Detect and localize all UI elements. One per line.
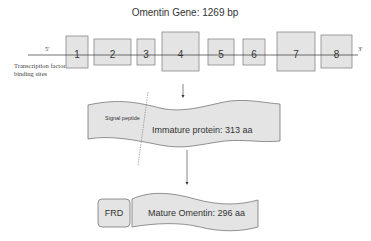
exon-label: 7 <box>293 49 299 60</box>
exon-label: 4 <box>178 49 184 60</box>
exon-label: 3 <box>143 49 149 60</box>
exon-1: 1 <box>66 36 88 68</box>
immature-protein-label: Immature protein: 313 aa <box>152 125 253 135</box>
arrow-immature-to-mature <box>186 150 189 185</box>
signal-peptide-label: Signal peptide <box>105 115 140 121</box>
immature-protein-ribbon <box>88 100 280 146</box>
omentin-diagram: Omentin Gene: 1269 bp 1 2 3 4 5 6 7 8 5'… <box>0 0 371 241</box>
exon-label: 5 <box>218 49 224 60</box>
diagram-title: Omentin Gene: 1269 bp <box>132 7 239 18</box>
exon-6: 6 <box>243 39 265 65</box>
mature-protein-label: Mature Omentin: 296 aa <box>148 208 245 218</box>
frd-domain: FRD <box>98 199 130 227</box>
exon-label: 8 <box>334 49 340 60</box>
tf-binding-label-line2: binding sites <box>14 70 48 77</box>
exon-label: 6 <box>251 49 257 60</box>
exon-label: 1 <box>74 49 80 60</box>
frd-label: FRD <box>105 208 124 218</box>
tf-binding-label-line1: Transcription factor <box>14 62 66 69</box>
exon-7: 7 <box>277 32 315 71</box>
arrow-gene-to-protein <box>182 84 185 98</box>
exon-8: 8 <box>321 35 352 68</box>
exon-5: 5 <box>208 39 234 65</box>
three-prime-label: 3' <box>358 45 362 52</box>
exon-3: 3 <box>137 39 155 65</box>
exon-2: 2 <box>94 39 131 65</box>
exon-label: 2 <box>110 49 116 60</box>
five-prime-label: 5' <box>45 45 49 52</box>
exon-4: 4 <box>162 32 199 71</box>
